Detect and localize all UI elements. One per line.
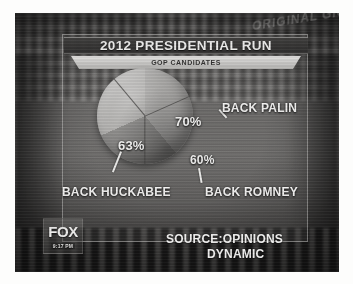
clock-label: 9:17 PM [51, 243, 75, 249]
series-label-romney: BACK ROMNEY [205, 185, 298, 199]
graphic-title: 2012 PRESIDENTIAL RUN [100, 38, 272, 53]
screenshot-root: ORIGINAL GIGS56 2012 PRESIDENTIAL RUN GO… [0, 0, 353, 284]
graphic-subtitle: GOP CANDIDATES [151, 59, 221, 66]
network-bug: FOX 9:17 PM [43, 218, 83, 254]
value-label-palin: 70% [175, 114, 202, 129]
series-label-huckabee: BACK HUCKABEE [62, 185, 171, 199]
source-attribution-line1: SOURCE:OPINIONS [166, 232, 283, 246]
series-label-palin: BACK PALIN [222, 101, 297, 115]
source-attribution-line2: DYNAMIC [207, 247, 264, 261]
tv-screen-photo: ORIGINAL GIGS56 2012 PRESIDENTIAL RUN GO… [15, 13, 339, 272]
fox-logo: FOX [48, 224, 77, 240]
value-label-huckabee: 63% [118, 138, 145, 153]
graphic-title-band: 2012 PRESIDENTIAL RUN [64, 37, 308, 54]
value-label-romney: 60% [190, 153, 215, 167]
